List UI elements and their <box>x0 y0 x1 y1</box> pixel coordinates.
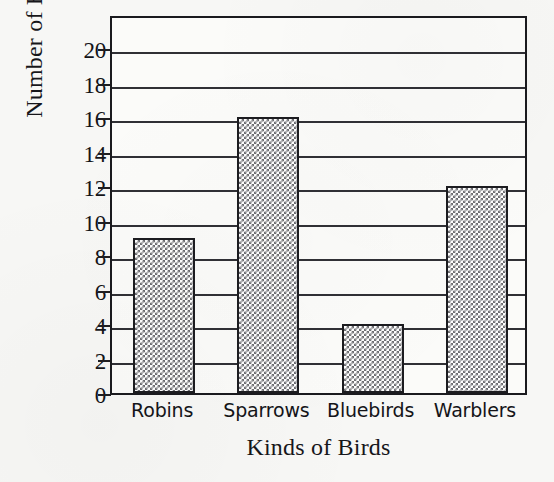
x-axis-label-robins: Robins <box>131 400 193 422</box>
x-axis-label-bluebirds: Bluebirds <box>327 400 414 422</box>
plot-area <box>110 16 527 395</box>
x-axis-label-sparrows: Sparrows <box>223 400 309 422</box>
bar-robins[interactable] <box>133 238 195 393</box>
x-axis-category-labels: RobinsSparrowsBluebirdsWarblers <box>110 400 527 432</box>
x-axis-label-warblers: Warblers <box>434 400 516 422</box>
bar-sparrows[interactable] <box>237 117 299 393</box>
bar-chart-figure: Number of Birds 02468101214161820 Robins… <box>0 0 554 482</box>
plot-inner <box>112 18 525 393</box>
bar-bluebirds[interactable] <box>342 324 404 393</box>
y-axis-title: Number of Birds <box>14 0 54 160</box>
x-axis-title: Kinds of Birds <box>110 434 527 461</box>
bar-warblers[interactable] <box>446 186 508 393</box>
bars-layer <box>112 18 525 393</box>
